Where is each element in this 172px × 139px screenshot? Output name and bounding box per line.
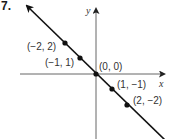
point-neg1-1 xyxy=(77,55,82,60)
label-neg1-1: (−1, 1) xyxy=(45,57,74,68)
label-2-neg2: (2, −2) xyxy=(133,95,162,106)
y-axis-label: y xyxy=(85,5,91,16)
label-1-neg1: (1, −1) xyxy=(117,79,146,90)
label-neg2-2: (−2, 2) xyxy=(27,41,56,52)
point-neg2-2 xyxy=(62,40,67,45)
point-origin xyxy=(93,71,98,76)
label-origin: (0, 0) xyxy=(99,61,122,72)
point-2-neg2 xyxy=(124,102,129,107)
point-1-neg1 xyxy=(109,86,114,91)
x-axis-label: x xyxy=(158,78,164,89)
coordinate-graph: x y (−2, 2) (−1, 1) (0, 0) (1, −1) (2, −… xyxy=(0,0,172,139)
